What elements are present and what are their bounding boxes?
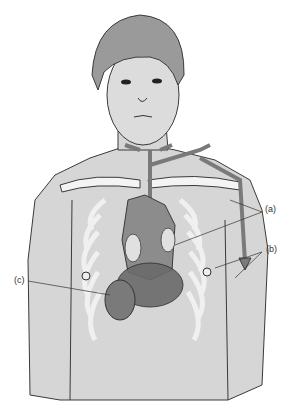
label-b: (b) [266,244,277,254]
stomach [105,280,135,320]
label-a: (a) [265,204,276,214]
lung-left [125,234,141,262]
lung-right [161,228,175,252]
label-c: (c) [14,275,25,285]
anatomy-illustration [0,0,288,410]
